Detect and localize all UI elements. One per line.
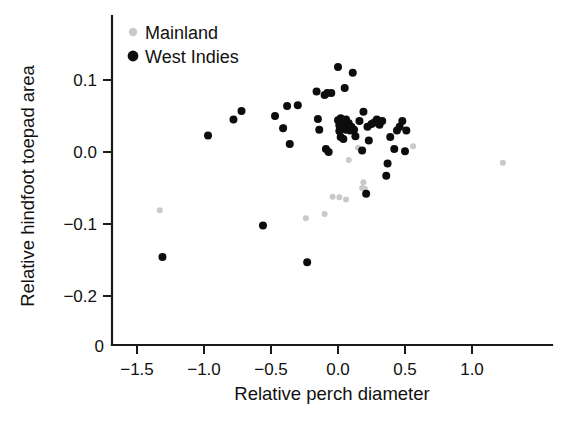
data-point [330, 194, 336, 200]
y-axis-title: Relative hindfoot toepad area [17, 64, 38, 306]
legend-label-mainland: Mainland [145, 23, 218, 43]
x-tick-label: −1.5 [120, 360, 154, 379]
data-point [157, 207, 163, 213]
data-point [294, 101, 302, 109]
data-point [390, 145, 398, 153]
data-point [322, 211, 328, 217]
x-tick-label: 0.0 [326, 360, 350, 379]
data-point [327, 89, 335, 97]
x-tick-label: 0.5 [393, 360, 417, 379]
data-point [346, 157, 352, 163]
data-point [283, 102, 291, 110]
data-point [349, 69, 357, 77]
y-tick-label: 0.1 [73, 71, 97, 90]
y-tick-label: −0.2 [63, 287, 97, 306]
data-point [351, 132, 359, 140]
plot-background [0, 0, 563, 422]
data-point [398, 117, 406, 125]
data-point [378, 117, 386, 125]
legend-marker-mainland [129, 28, 137, 36]
data-point [401, 147, 409, 155]
legend-label-west-indies: West Indies [145, 47, 239, 67]
data-point [410, 143, 416, 149]
data-point [325, 148, 333, 156]
data-point [303, 258, 311, 266]
data-point [384, 160, 392, 168]
x-tick-label: −0.5 [254, 360, 288, 379]
data-point [341, 84, 349, 92]
data-point [386, 133, 394, 141]
y-tick-label: 0.0 [73, 143, 97, 162]
data-point [313, 88, 321, 96]
x-tick-label: 1.0 [460, 360, 484, 379]
x-axis-title: Relative perch diameter [234, 383, 429, 404]
data-point [339, 135, 347, 143]
scatter-plot-canvas: −1.5−1.0−0.50.00.51.0 0.10.0−0.1−0.2 0 R… [0, 0, 563, 422]
data-point [343, 197, 349, 203]
data-point [259, 221, 267, 229]
data-point [229, 116, 237, 124]
data-point [303, 215, 309, 221]
data-point [238, 107, 246, 115]
data-point [402, 126, 410, 134]
data-point [314, 115, 322, 123]
data-point [500, 160, 506, 166]
y-tick-label: −0.1 [63, 215, 97, 234]
scatter-plot-figure: −1.5−1.0−0.50.00.51.0 0.10.0−0.1−0.2 0 R… [0, 0, 563, 422]
data-point [359, 108, 367, 116]
data-point [286, 140, 294, 148]
data-point [362, 190, 370, 198]
data-point [204, 131, 212, 139]
data-point [365, 136, 373, 144]
data-point [336, 194, 342, 200]
legend-marker-west-indies [128, 51, 139, 62]
data-point [360, 179, 366, 185]
data-point [279, 124, 287, 132]
data-point [271, 112, 279, 120]
data-point [158, 253, 166, 261]
data-point [355, 117, 363, 125]
data-point [382, 172, 390, 180]
data-point [315, 126, 323, 134]
x-tick-label: −1.0 [187, 360, 221, 379]
origin-tick-label: 0 [95, 337, 104, 356]
data-point [334, 63, 342, 71]
data-point [358, 147, 366, 155]
